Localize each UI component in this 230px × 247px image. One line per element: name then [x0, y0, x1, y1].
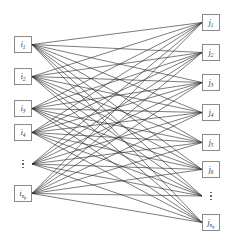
node-label-j6: j6 — [209, 166, 214, 174]
node-label-j5: j5 — [209, 139, 214, 147]
edge-0-3 — [32, 45, 202, 113]
edge-1-0 — [32, 23, 202, 77]
node-label-i2: i2 — [21, 73, 26, 81]
node-jnq[interactable]: jnq — [202, 214, 220, 231]
right-node-ellipsis — [206, 188, 216, 204]
edge-2-6 — [32, 109, 202, 197]
ellipsis-dot — [22, 160, 23, 161]
node-label-j2: j2 — [209, 49, 214, 57]
node-label-i4: i4 — [21, 129, 26, 137]
bipartite-graph-figure: i1i2i3i4inp j1j2j3j4j5j6jnq — [0, 0, 230, 247]
node-label-i3: i3 — [21, 105, 26, 113]
edge-0-0 — [32, 23, 202, 45]
node-label-jnq: jnq — [208, 219, 215, 227]
node-j3[interactable]: j3 — [202, 74, 220, 91]
node-i1[interactable]: i1 — [14, 36, 32, 53]
node-inp[interactable]: inp — [14, 185, 32, 202]
edge-3-3 — [32, 113, 202, 133]
edge-2-1 — [32, 53, 202, 109]
node-label-inp: inp — [20, 190, 27, 198]
edge-5-7 — [32, 194, 202, 223]
node-j4[interactable]: j4 — [202, 104, 220, 121]
ellipsis-dot — [210, 199, 211, 200]
node-i3[interactable]: i3 — [14, 100, 32, 117]
node-i2[interactable]: i2 — [14, 68, 32, 85]
ellipsis-dot — [210, 192, 211, 193]
edge-5-1 — [32, 53, 202, 194]
edge-2-3 — [32, 109, 202, 113]
node-j6[interactable]: j6 — [202, 161, 220, 178]
node-label-j1: j1 — [209, 19, 214, 27]
edge-1-7 — [32, 77, 202, 223]
edge-layer — [0, 0, 230, 247]
ellipsis-dot — [210, 195, 211, 196]
edge-3-2 — [32, 83, 202, 133]
node-label-j4: j4 — [209, 109, 214, 117]
node-j5[interactable]: j5 — [202, 134, 220, 151]
left-node-ellipsis — [18, 156, 28, 172]
node-label-i1: i1 — [21, 41, 26, 49]
edge-4-0 — [32, 23, 202, 165]
node-j1[interactable]: j1 — [202, 14, 220, 31]
edge-2-5 — [32, 109, 202, 170]
node-label-j3: j3 — [209, 79, 214, 87]
edge-4-7 — [32, 164, 202, 223]
edge-5-6 — [32, 194, 202, 197]
node-j2[interactable]: j2 — [202, 44, 220, 61]
node-i4[interactable]: i4 — [14, 124, 32, 141]
ellipsis-dot — [22, 163, 23, 164]
ellipsis-dot — [22, 167, 23, 168]
